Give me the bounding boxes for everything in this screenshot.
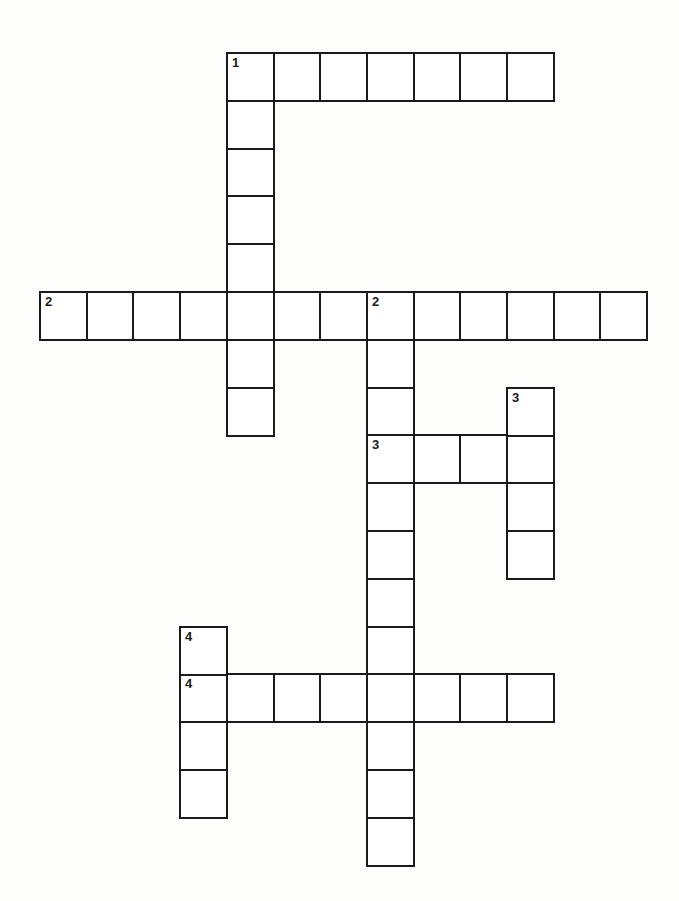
crossword-cell[interactable] — [459, 673, 508, 723]
crossword-cell[interactable] — [179, 291, 228, 341]
crossword-cell[interactable] — [273, 673, 322, 723]
crossword-cell[interactable]: 1 — [226, 52, 275, 102]
crossword-cell[interactable] — [366, 339, 415, 389]
crossword-cell[interactable] — [366, 387, 415, 437]
crossword-cell[interactable] — [86, 291, 135, 341]
crossword-cell[interactable] — [319, 291, 368, 341]
crossword-cell[interactable] — [506, 482, 555, 532]
crossword-cell[interactable] — [366, 482, 415, 532]
clue-number: 1 — [232, 56, 239, 69]
crossword-cell[interactable] — [366, 817, 415, 867]
crossword-cell[interactable] — [319, 52, 368, 102]
crossword-cell[interactable] — [319, 673, 368, 723]
crossword-cell[interactable]: 3 — [366, 434, 415, 484]
crossword-cell[interactable] — [226, 387, 275, 437]
crossword-cell[interactable] — [413, 434, 462, 484]
crossword-cell[interactable] — [413, 52, 462, 102]
crossword-cell[interactable] — [226, 195, 275, 245]
crossword-cell[interactable]: 3 — [506, 387, 555, 437]
crossword-cell[interactable] — [226, 673, 275, 723]
clue-number: 4 — [185, 677, 192, 690]
crossword-cell[interactable] — [599, 291, 648, 341]
crossword-cell[interactable] — [366, 769, 415, 819]
clue-number: 2 — [45, 295, 52, 308]
crossword-cell[interactable] — [179, 721, 228, 771]
crossword-cell[interactable] — [226, 148, 275, 198]
crossword-cell[interactable] — [226, 100, 275, 150]
crossword-cell[interactable] — [366, 721, 415, 771]
clue-number: 3 — [512, 391, 519, 404]
crossword-cell[interactable] — [366, 673, 415, 723]
crossword-cell[interactable] — [506, 673, 555, 723]
crossword-cell[interactable] — [506, 530, 555, 580]
crossword-cell[interactable] — [366, 578, 415, 628]
crossword-cell[interactable] — [459, 52, 508, 102]
crossword-cell[interactable] — [226, 291, 275, 341]
crossword-cell[interactable] — [506, 291, 555, 341]
crossword-cell[interactable]: 2 — [366, 291, 415, 341]
crossword-cell[interactable] — [366, 626, 415, 676]
crossword-cell[interactable] — [366, 530, 415, 580]
crossword-cell[interactable] — [553, 291, 602, 341]
crossword-cell[interactable] — [506, 434, 555, 484]
crossword-cell[interactable] — [506, 52, 555, 102]
crossword-cell[interactable] — [273, 52, 322, 102]
crossword-cell[interactable] — [366, 52, 415, 102]
crossword-cell[interactable] — [459, 291, 508, 341]
crossword-cell[interactable] — [413, 291, 462, 341]
crossword-cell[interactable] — [273, 291, 322, 341]
crossword-cell[interactable]: 4 — [179, 673, 228, 723]
crossword-cell[interactable] — [413, 673, 462, 723]
crossword-cell[interactable] — [226, 339, 275, 389]
clue-number: 2 — [372, 295, 379, 308]
crossword-cell[interactable] — [226, 243, 275, 293]
clue-number: 4 — [185, 630, 192, 643]
crossword-cell[interactable]: 4 — [179, 626, 228, 676]
crossword-cell[interactable] — [132, 291, 181, 341]
clue-number: 3 — [372, 438, 379, 451]
crossword-cell[interactable] — [459, 434, 508, 484]
crossword-cell[interactable] — [179, 769, 228, 819]
crossword-cell[interactable]: 2 — [39, 291, 88, 341]
crossword-grid: 1223344 — [0, 0, 679, 901]
